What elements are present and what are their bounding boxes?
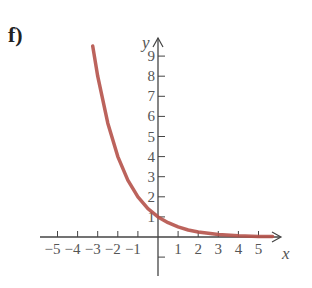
x-tick-label: 4	[235, 241, 243, 257]
y-tick-label: 3	[148, 169, 156, 185]
x-tick-label: −4	[65, 241, 81, 257]
x-tick-label: −2	[105, 241, 121, 257]
x-tick-label: 5	[255, 241, 263, 257]
x-tick-label: 2	[194, 241, 202, 257]
y-tick-label: 5	[148, 129, 156, 145]
y-tick-label: 8	[148, 68, 156, 84]
x-tick-label: 1	[174, 241, 182, 257]
y-axis-label: y	[140, 33, 150, 52]
x-tick-label: 3	[215, 241, 223, 257]
x-tick-label: −1	[125, 241, 141, 257]
y-tick-label: 4	[148, 149, 156, 165]
y-tick-label: 2	[148, 189, 156, 205]
y-tick-label: 6	[148, 108, 156, 124]
y-tick-label: 7	[148, 88, 156, 104]
x-axis-label: x	[281, 244, 290, 263]
x-tick-label: −5	[45, 241, 61, 257]
x-tick-label: −3	[85, 241, 101, 257]
curve-series	[93, 46, 273, 237]
chart: −5−4−3−2−112345123456789xy	[0, 0, 312, 288]
